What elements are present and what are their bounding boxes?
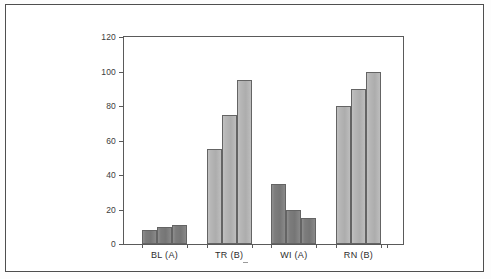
y-axis-tick [119, 244, 124, 245]
bar [157, 227, 172, 244]
x-axis-tick [336, 244, 337, 248]
y-axis-tick-label: 0 [111, 239, 116, 249]
bar [222, 115, 237, 244]
x-axis-tick [316, 244, 317, 248]
figure-border: 020406080100120 BL (A)TR (B)WI (A)RN (B) [5, 4, 484, 272]
scan-artifact-speck [243, 262, 248, 263]
bar [286, 210, 301, 245]
bar [172, 225, 187, 244]
y-axis-tick [119, 210, 124, 211]
bar [142, 230, 157, 244]
x-axis-category-label: BL (A) [151, 250, 178, 260]
plot-area: 020406080100120 BL (A)TR (B)WI (A)RN (B) [123, 36, 404, 245]
bar [336, 106, 351, 244]
x-axis-tick [271, 244, 272, 248]
x-axis-tick [252, 244, 253, 248]
bar-chart-figure: 020406080100120 BL (A)TR (B)WI (A)RN (B) [0, 0, 491, 279]
x-axis-category-label: TR (B) [215, 250, 243, 260]
y-axis-tick [119, 37, 124, 38]
y-axis-tick-label: 100 [101, 67, 116, 77]
x-axis-tick [187, 244, 188, 248]
y-axis-tick [119, 72, 124, 73]
y-axis-tick-label: 20 [106, 205, 116, 215]
bar [351, 89, 366, 244]
y-axis-tick-label: 80 [106, 101, 116, 111]
bar [271, 184, 286, 244]
x-axis-tick [207, 244, 208, 248]
y-axis-tick [119, 106, 124, 107]
bar [366, 72, 381, 245]
bar [207, 149, 222, 244]
y-axis-tick [119, 175, 124, 176]
y-axis-tick-label: 120 [101, 32, 116, 42]
bar [301, 218, 316, 244]
x-axis-category-label: WI (A) [280, 250, 307, 260]
y-axis-tick-label: 60 [106, 136, 116, 146]
x-axis-tick [387, 244, 388, 248]
x-axis-tick [142, 244, 143, 248]
x-axis-tick [381, 244, 382, 248]
y-axis-tick-label: 40 [106, 170, 116, 180]
bar [237, 80, 252, 244]
y-axis-tick [119, 141, 124, 142]
x-axis-category-label: RN (B) [344, 250, 373, 260]
